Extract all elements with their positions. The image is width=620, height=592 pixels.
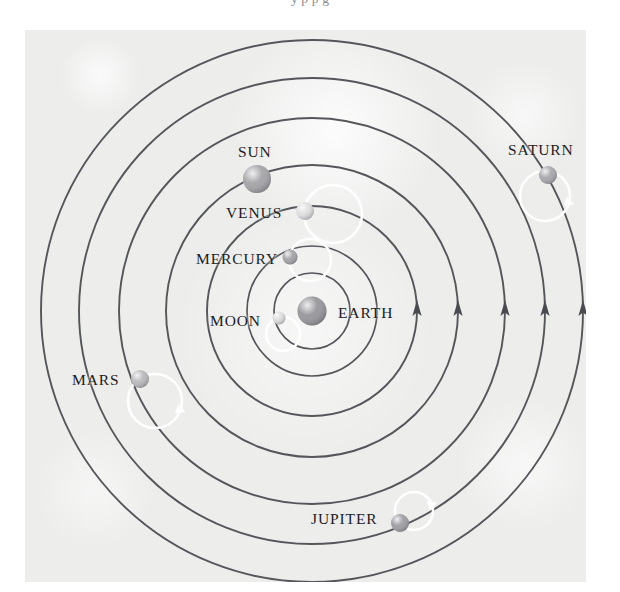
saturn-label: SATURN bbox=[508, 141, 574, 159]
venus-label: VENUS bbox=[226, 204, 282, 222]
mars-label: MARS bbox=[72, 371, 120, 389]
direction-arrows-group bbox=[412, 300, 587, 316]
figure-page: y p p g EARTHMOONMERCURYVENUSSUNMARSJUPI… bbox=[0, 0, 620, 592]
earth-label: EARTH bbox=[338, 304, 393, 322]
mars-sphere bbox=[131, 370, 149, 388]
earth-sphere bbox=[298, 297, 327, 326]
mercury-sphere bbox=[283, 250, 298, 265]
moon-label: MOON bbox=[210, 312, 261, 330]
jupiter-sphere bbox=[391, 514, 409, 532]
saturn-sphere bbox=[539, 166, 557, 184]
celestial-bodies-group bbox=[131, 165, 557, 532]
sun-label: SUN bbox=[238, 143, 272, 161]
mercury-label: MERCURY bbox=[196, 250, 278, 268]
orbit-diagram bbox=[0, 0, 620, 592]
sun-sphere bbox=[243, 165, 271, 193]
jupiter-label: JUPITER bbox=[311, 510, 378, 528]
moon-sphere bbox=[273, 312, 286, 325]
venus-sphere bbox=[296, 202, 314, 220]
